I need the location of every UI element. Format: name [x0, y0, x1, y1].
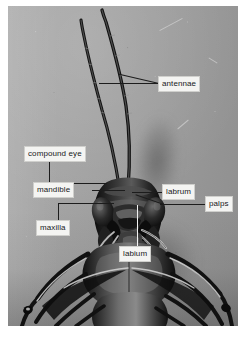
- label-compound-eye: compound eye: [24, 146, 86, 162]
- leader-compound-eye-v: [49, 162, 50, 184]
- label-palps: palps: [205, 196, 233, 212]
- leader-labrum: [132, 192, 162, 193]
- label-antennae: antennae: [158, 76, 200, 92]
- leader-maxilla-h: [58, 203, 114, 204]
- anatomy-figure: antennae compound eye mandible labrum pa…: [0, 0, 245, 339]
- leader-maxilla-v: [58, 203, 59, 221]
- label-labium: labium: [119, 246, 151, 262]
- label-mandible: mandible: [33, 182, 74, 198]
- leader-mandible: [92, 190, 125, 191]
- leader-palps-h: [160, 204, 205, 205]
- label-labrum: labrum: [162, 184, 195, 200]
- label-maxilla: maxilla: [36, 220, 70, 236]
- annotation-layer: antennae compound eye mandible labrum pa…: [0, 0, 245, 339]
- leader-antennae-a: [99, 83, 159, 84]
- leader-labium: [137, 205, 138, 247]
- leader-palps-slant: [135, 194, 164, 205]
